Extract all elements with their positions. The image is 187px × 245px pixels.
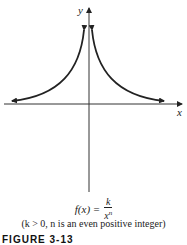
formula-lhs: f(x) = [75, 203, 100, 215]
right-branch-curve [92, 30, 164, 101]
formula-exponent: n [109, 209, 113, 217]
formula-caption: (k > 0, n is an even positive integer) [0, 218, 187, 229]
left-branch-curve [12, 30, 84, 101]
formula-numerator: k [104, 197, 112, 208]
function-graph [0, 0, 187, 200]
figure-label: FIGURE 3-13 [2, 234, 74, 245]
y-axis-label: y [78, 4, 83, 16]
x-axis-label: x [177, 106, 182, 118]
